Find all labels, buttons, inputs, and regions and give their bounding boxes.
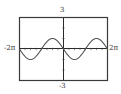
function-plot [0, 0, 121, 94]
y-min-label: -3 [59, 83, 66, 90]
x-max-label: 2π [109, 45, 118, 52]
x-min-label: -2π [4, 45, 15, 52]
y-max-label: 3 [60, 7, 64, 14]
